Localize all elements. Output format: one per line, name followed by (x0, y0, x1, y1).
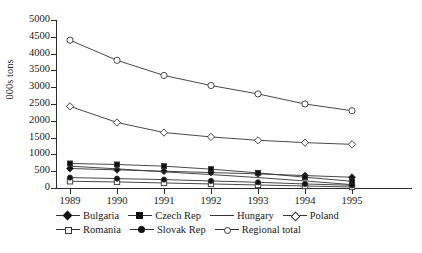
x-tick-label: 1993 (238, 195, 278, 206)
x-tick (305, 189, 306, 194)
x-tick-label: 1990 (97, 195, 137, 206)
x-tick (352, 189, 353, 194)
legend-marker-open-diamond-icon (290, 212, 300, 222)
y-tick (51, 37, 57, 38)
x-tick (258, 189, 259, 194)
legend-item-label: Czech Rep (155, 210, 201, 222)
legend-item-czech-rep[interactable]: Czech Rep (128, 210, 201, 222)
legend-item-label: Regional total (242, 224, 301, 236)
legend-marker-filled-square-icon (136, 212, 143, 219)
legend-glyph (56, 224, 80, 236)
x-tick (164, 189, 165, 194)
legend-item-label: Romania (83, 224, 121, 236)
y-tick (51, 188, 57, 189)
legend-marker-filled-diamond-icon (63, 211, 73, 221)
x-tick (117, 189, 118, 194)
x-tick (70, 189, 71, 194)
legend-marker-open-square-icon (65, 227, 72, 234)
legend-item-label: Poland (310, 210, 339, 222)
series-poland (66, 103, 355, 148)
legend-glyph (215, 224, 239, 236)
legend-item-label: Bulgaria (83, 210, 119, 222)
legend-item-poland[interactable]: Poland (283, 210, 339, 222)
y-tick (51, 87, 57, 88)
chart-container: 000s tons 050010001500200025003000350040… (0, 0, 422, 253)
y-tick (51, 154, 57, 155)
legend-line (210, 215, 234, 216)
x-tick-label: 1991 (144, 195, 184, 206)
y-tick (51, 20, 57, 21)
x-tick (211, 189, 212, 194)
legend-row-1: BulgariaCzech RepHungaryPoland (56, 209, 396, 223)
x-tick-label: 1992 (191, 195, 231, 206)
y-tick (51, 54, 57, 55)
y-tick (51, 70, 57, 71)
legend-item-hungary[interactable]: Hungary (210, 210, 274, 222)
legend-item-slovak-rep[interactable]: Slovak Rep (130, 224, 206, 236)
legend-row-2: RomaniaSlovak RepRegional total (56, 223, 396, 237)
y-tick (51, 138, 57, 139)
legend-item-romania[interactable]: Romania (56, 224, 121, 236)
legend-item-label: Slovak Rep (157, 224, 206, 236)
legend-marker-filled-circle-icon (138, 226, 145, 233)
legend-glyph (283, 210, 307, 222)
y-tick (51, 104, 57, 105)
legend-glyph (128, 210, 152, 222)
legend-item-bulgaria[interactable]: Bulgaria (56, 210, 119, 222)
legend-item-regional-total[interactable]: Regional total (215, 224, 301, 236)
legend-glyph (130, 224, 154, 236)
legend-item-label: Hungary (237, 210, 274, 222)
legend-glyph (210, 210, 234, 222)
legend-marker-open-circle-icon (224, 227, 231, 234)
x-tick-label: 1989 (50, 195, 90, 206)
chart-legend: BulgariaCzech RepHungaryPoland RomaniaSl… (56, 209, 396, 237)
series-regional-total (67, 37, 355, 114)
legend-glyph (56, 210, 80, 222)
y-tick (51, 171, 57, 172)
x-tick-label: 1995 (332, 195, 372, 206)
y-tick (51, 121, 57, 122)
x-tick-label: 1994 (285, 195, 325, 206)
